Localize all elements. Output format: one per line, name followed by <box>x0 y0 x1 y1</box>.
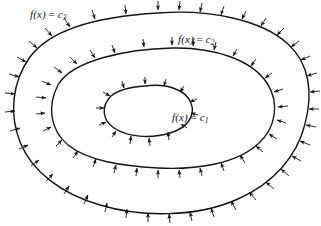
middle-label-fn: f(x) <box>178 33 194 45</box>
inner-label-symbol: c <box>200 111 205 123</box>
inner-label-fn: f(x) <box>172 111 188 123</box>
middle-label-symbol: c <box>206 33 211 45</box>
outer-label-symbol: c <box>58 8 63 20</box>
outer-label-op: = <box>46 8 58 20</box>
outer-level-curve <box>14 12 309 214</box>
middle-level-label: f(x) = c2 <box>178 33 215 45</box>
outer-level-label: f(x) = c3 <box>30 8 67 20</box>
outer-label-subscript: 3 <box>63 13 67 22</box>
curves-group <box>14 12 309 214</box>
inner-label-subscript: 1 <box>205 116 209 125</box>
outer-label-fn: f(x) <box>30 8 46 20</box>
middle-level-curve <box>52 48 275 168</box>
inner-label-op: = <box>188 111 200 123</box>
inner-level-label: f(x) = c1 <box>172 111 209 123</box>
middle-label-subscript: 2 <box>211 38 215 47</box>
middle-gradient-arrows <box>36 37 288 178</box>
middle-label-op: = <box>194 33 206 45</box>
level-curve-diagram <box>0 0 321 226</box>
